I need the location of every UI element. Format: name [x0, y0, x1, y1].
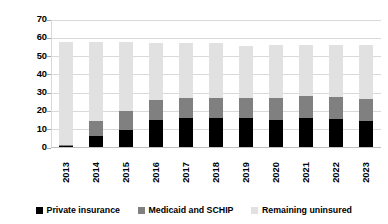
x-tick-label-2013: 2013	[61, 154, 72, 192]
y-tickmark-0	[47, 148, 51, 149]
bar-segment[interactable]	[359, 99, 374, 121]
legend-label: Medicaid and SCHIP	[148, 205, 233, 215]
x-tick-label-2015: 2015	[121, 154, 132, 192]
y-tickmark-10	[47, 129, 51, 130]
bar-segment[interactable]	[239, 46, 254, 97]
chart-legend: Private insuranceMedicaid and SCHIPRemai…	[0, 202, 388, 218]
y-tickmark-50	[47, 56, 51, 57]
legend-item-1[interactable]: Medicaid and SCHIP	[138, 205, 234, 215]
y-tick-label-10: 10	[27, 125, 47, 134]
y-tickmark-30	[47, 93, 51, 94]
y-tick-label-30: 30	[27, 88, 47, 97]
bar-segment[interactable]	[119, 130, 134, 147]
bar-group-2014[interactable]	[89, 20, 104, 148]
bar-segment[interactable]	[299, 45, 314, 96]
x-tick-label-2022: 2022	[331, 154, 342, 192]
stacked-bar-chart: Millions of people 010203040506070 20132…	[0, 0, 388, 224]
legend-item-0[interactable]: Private insurance	[36, 205, 120, 215]
y-tickmark-60	[47, 38, 51, 39]
y-tickmark-40	[47, 74, 51, 75]
bar-segment[interactable]	[209, 43, 224, 97]
bar-group-2017[interactable]	[179, 20, 194, 148]
bar-segment[interactable]	[299, 96, 314, 118]
y-axis-tick-labels: 010203040506070	[20, 0, 47, 224]
bar-segment[interactable]	[119, 111, 134, 131]
bar-segment[interactable]	[329, 45, 344, 97]
bar-segment[interactable]	[239, 118, 254, 147]
y-tick-label-0: 0	[27, 143, 47, 152]
y-tick-label-40: 40	[27, 70, 47, 79]
bar-segment[interactable]	[209, 98, 224, 118]
bar-group-2019[interactable]	[239, 20, 254, 148]
x-tick-label-2017: 2017	[181, 154, 192, 192]
bar-segment[interactable]	[269, 98, 284, 120]
x-axis-tick-labels: 2013201420152016201720182019202020212022…	[51, 148, 381, 192]
bar-segment[interactable]	[179, 98, 194, 118]
bar-group-2016[interactable]	[149, 20, 164, 148]
bar-segment[interactable]	[269, 45, 284, 98]
bar-group-2013[interactable]	[59, 20, 74, 148]
bar-segment[interactable]	[329, 97, 344, 119]
bar-segment[interactable]	[179, 118, 194, 147]
bar-segment[interactable]	[209, 118, 224, 147]
bar-segment[interactable]	[89, 42, 104, 121]
x-tick-label-2014: 2014	[91, 154, 102, 192]
bar-segment[interactable]	[119, 42, 134, 111]
y-tick-label-60: 60	[27, 33, 47, 42]
bar-group-2018[interactable]	[209, 20, 224, 148]
y-tick-label-70: 70	[27, 15, 47, 24]
y-tick-label-50: 50	[27, 52, 47, 61]
x-tick-label-2020: 2020	[271, 154, 282, 192]
bar-segment[interactable]	[239, 98, 254, 118]
bar-segment[interactable]	[149, 100, 164, 120]
bar-segment[interactable]	[179, 43, 194, 98]
bar-group-2015[interactable]	[119, 20, 134, 148]
legend-swatch-icon	[36, 207, 43, 214]
legend-label: Remaining uninsured	[262, 205, 352, 215]
bar-segment[interactable]	[149, 43, 164, 100]
bar-group-2020[interactable]	[269, 20, 284, 148]
bar-group-2023[interactable]	[359, 20, 374, 148]
bar-group-2022[interactable]	[329, 20, 344, 148]
bar-segment[interactable]	[359, 121, 374, 148]
bar-segment[interactable]	[149, 120, 164, 148]
bar-segment[interactable]	[329, 119, 344, 147]
bar-segment[interactable]	[59, 42, 74, 145]
x-tick-label-2019: 2019	[241, 154, 252, 192]
bar-segment[interactable]	[299, 118, 314, 148]
bar-segment[interactable]	[269, 120, 284, 148]
legend-swatch-icon	[138, 207, 145, 214]
legend-label: Private insurance	[47, 205, 120, 215]
plot-area	[51, 20, 381, 148]
y-axis-title: Millions of people	[0, 0, 14, 32]
legend-item-2[interactable]: Remaining uninsured	[251, 205, 351, 215]
x-tick-label-2021: 2021	[301, 154, 312, 192]
y-tickmark-70	[47, 20, 51, 21]
bar-segment[interactable]	[359, 45, 374, 99]
bar-group-2021[interactable]	[299, 20, 314, 148]
bar-segment[interactable]	[89, 121, 104, 136]
legend-swatch-icon	[251, 207, 258, 214]
y-tickmark-20	[47, 111, 51, 112]
x-tick-label-2016: 2016	[151, 154, 162, 192]
x-tick-label-2023: 2023	[361, 154, 372, 192]
x-tick-label-2018: 2018	[211, 154, 222, 192]
bar-series-container	[51, 20, 381, 148]
y-tick-label-20: 20	[27, 106, 47, 115]
